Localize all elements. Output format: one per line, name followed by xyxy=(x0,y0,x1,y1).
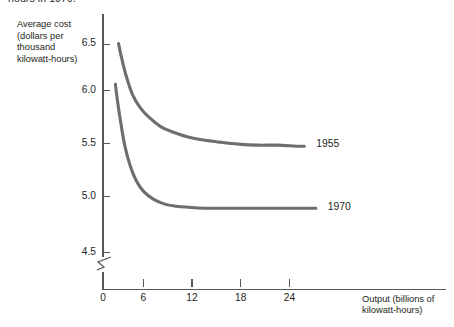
series-label-1955: 1955 xyxy=(316,138,339,149)
curve-1955 xyxy=(118,44,304,147)
series-label-1970: 1970 xyxy=(328,201,351,212)
plot-area xyxy=(0,0,454,327)
cost-curves-figure: hours in 1970. Average cost (dollars per… xyxy=(0,0,454,327)
